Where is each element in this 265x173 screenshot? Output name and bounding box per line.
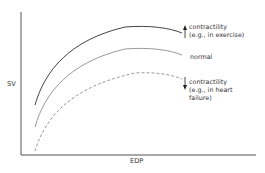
label-decreased: contractility (e.g., in heart failure) [189, 78, 233, 103]
label-increased: contractility (e.g., in exercise) [189, 23, 244, 39]
y-axis-label: SV [7, 80, 16, 88]
label-normal: normal [190, 53, 212, 61]
arrow-down-icon [183, 77, 187, 90]
curve-increased-contractility [35, 26, 182, 105]
curve-decreased-contractility [35, 73, 182, 151]
curve-normal [35, 48, 182, 127]
arrow-up-icon [183, 25, 187, 38]
x-axis-label: EDP [130, 157, 143, 165]
